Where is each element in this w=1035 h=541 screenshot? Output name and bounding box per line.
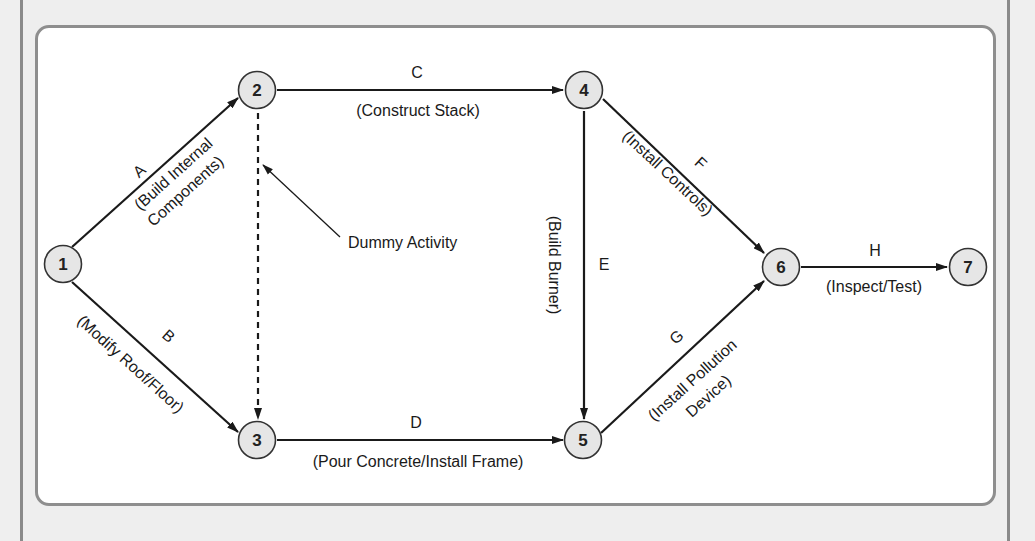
node-2: 2 — [239, 72, 276, 109]
node-3: 3 — [239, 422, 276, 459]
edge-c-desc: (Construct Stack) — [356, 102, 480, 119]
dummy-pointer — [263, 165, 340, 237]
svg-text:2: 2 — [252, 81, 261, 100]
svg-text:3: 3 — [252, 431, 261, 450]
edge-a-letter: A — [130, 161, 150, 181]
dummy-activity-label: Dummy Activity — [348, 234, 457, 251]
edge-b-letter: B — [159, 326, 178, 346]
svg-text:1: 1 — [58, 255, 67, 274]
edge-e-desc: (Build Burner) — [546, 216, 563, 315]
node-7: 7 — [950, 249, 987, 286]
edge-e-letter: E — [599, 256, 610, 273]
edge-d-desc: (Pour Concrete/Install Frame) — [313, 453, 524, 470]
edge-b — [72, 282, 238, 432]
svg-text:5: 5 — [578, 431, 587, 450]
edge-d-letter: D — [410, 414, 422, 431]
edge-g-letter: G — [666, 326, 687, 347]
svg-text:4: 4 — [579, 81, 589, 100]
node-6: 6 — [763, 249, 800, 286]
svg-text:7: 7 — [963, 258, 972, 277]
svg-text:6: 6 — [776, 258, 785, 277]
node-4: 4 — [566, 72, 603, 109]
edge-h-desc: (Inspect/Test) — [826, 278, 922, 295]
node-5: 5 — [565, 422, 602, 459]
edge-g — [601, 281, 764, 433]
edge-f-letter: F — [691, 153, 710, 172]
edge-h-letter: H — [869, 242, 881, 259]
edge-c-letter: C — [411, 64, 423, 81]
edge-f-desc: (Install Controls) — [619, 127, 716, 219]
node-1: 1 — [45, 246, 82, 283]
